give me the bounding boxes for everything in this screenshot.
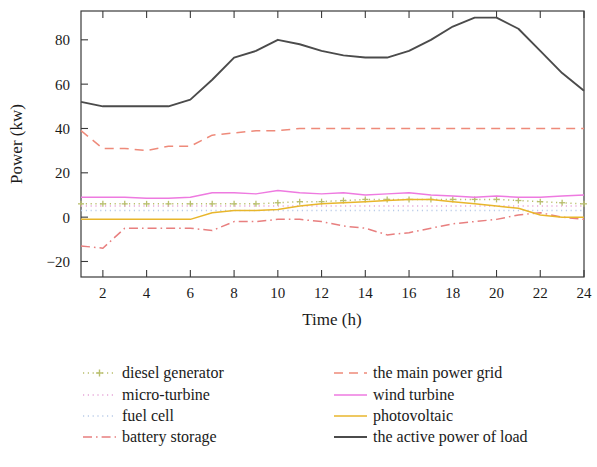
series-marker-plus	[559, 200, 565, 206]
x-axis-ticks: 24681012141618202224	[99, 11, 592, 301]
legend-item-the-active-power-of-load: the active power of load	[334, 428, 528, 446]
series-line-the-main-power-grid	[81, 128, 584, 150]
y-tick-label: 40	[55, 121, 70, 137]
y-tick-label: 0	[63, 210, 71, 226]
legend-item-fuel-cell: fuel cell	[83, 407, 175, 424]
chart-legend: diesel generatormicro-turbinefuel cellba…	[83, 364, 528, 446]
series-marker-plus	[275, 200, 281, 206]
legend-item-micro-turbine: micro-turbine	[83, 386, 210, 403]
legend-label: diesel generator	[122, 364, 224, 382]
x-tick-label: 16	[402, 285, 418, 301]
series-line-the-active-power-of-load	[81, 18, 584, 107]
legend-label: battery storage	[122, 428, 217, 446]
y-tick-label: 60	[55, 77, 70, 93]
legend-marker-plus	[96, 370, 103, 377]
legend-label: the main power grid	[373, 364, 502, 382]
x-tick-label: 14	[358, 285, 374, 301]
y-tick-label: 20	[55, 165, 70, 181]
x-tick-label: 20	[489, 285, 504, 301]
x-tick-label: 8	[230, 285, 238, 301]
x-tick-label: 12	[314, 285, 329, 301]
x-tick-label: 6	[187, 285, 195, 301]
y-axis-ticks: −20020406080	[47, 32, 88, 270]
legend-item-wind-turbine: wind turbine	[334, 386, 454, 403]
series-group	[78, 18, 587, 249]
series-marker-plus	[384, 196, 390, 202]
x-tick-label: 2	[99, 285, 107, 301]
series-marker-plus	[581, 201, 587, 207]
y-tick-label: 80	[55, 32, 70, 48]
x-tick-label: 18	[445, 285, 460, 301]
series-marker-plus	[537, 199, 543, 205]
series-marker-plus	[231, 201, 237, 207]
series-line-photovoltaic	[81, 199, 584, 219]
legend-item-diesel-generator: diesel generator	[83, 364, 224, 382]
series-marker-plus	[209, 201, 215, 207]
plot-frame	[81, 11, 584, 277]
legend-item-photovoltaic: photovoltaic	[334, 407, 453, 425]
legend-label: photovoltaic	[373, 407, 453, 425]
legend-item-the-main-power-grid: the main power grid	[334, 364, 502, 382]
legend-label: micro-turbine	[122, 386, 210, 403]
x-tick-label: 10	[270, 285, 285, 301]
x-tick-label: 24	[577, 285, 593, 301]
series-line-wind-turbine	[81, 191, 584, 199]
y-axis-title: Power (kw)	[7, 104, 26, 184]
legend-label: the active power of load	[373, 428, 528, 446]
series-line-battery-storage	[81, 213, 584, 248]
x-axis-title: Time (h)	[302, 310, 361, 329]
power-dispatch-chart: −20020406080 24681012141618202224 Power …	[0, 0, 597, 467]
chart-canvas: −20020406080 24681012141618202224 Power …	[0, 0, 597, 467]
legend-label: wind turbine	[373, 386, 454, 403]
series-marker-plus	[494, 196, 500, 202]
x-tick-label: 22	[533, 285, 548, 301]
legend-label: fuel cell	[122, 407, 175, 424]
x-tick-label: 4	[143, 285, 151, 301]
y-tick-label: −20	[47, 254, 70, 270]
series-marker-plus	[515, 198, 521, 204]
legend-item-battery-storage: battery storage	[83, 428, 217, 446]
series-marker-plus	[297, 199, 303, 205]
